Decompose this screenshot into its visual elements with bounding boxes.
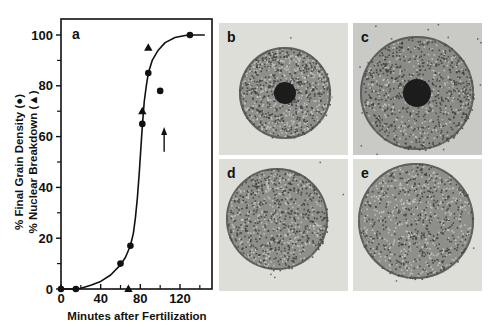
cell-nucleus [274, 82, 296, 104]
data-point-grain-density [58, 286, 65, 293]
plot-frame [61, 19, 212, 289]
y-tick-label: 0 [46, 282, 53, 297]
arrow-up-icon [161, 127, 167, 135]
data-point-grain-density [127, 243, 134, 250]
cell-nucleus [403, 79, 431, 107]
data-point-grain-density [139, 121, 146, 128]
micrograph-panel-c: c [353, 23, 482, 155]
data-point-nuclear-breakdown [138, 107, 146, 115]
panel-label-c: c [361, 29, 369, 45]
cell-image-b [219, 23, 348, 155]
x-tick-label: 120 [169, 291, 191, 306]
micrograph-panel-d: d [219, 159, 348, 291]
y-axis-label-line-2: % Nuclear Breakdown (▲) [27, 90, 39, 233]
cell-image-d [219, 159, 348, 291]
cell-image-c [353, 23, 482, 155]
data-point-grain-density [73, 286, 80, 293]
fit-curve [76, 35, 205, 289]
y-tick-label: 20 [39, 231, 53, 246]
y-tick-label: 60 [39, 129, 53, 144]
panel-label-d: d [227, 165, 236, 181]
data-point-grain-density [187, 32, 194, 39]
data-point-grain-density [145, 70, 152, 77]
x-axis-label: Minutes after Fertilization [67, 310, 206, 322]
data-point-grain-density [117, 260, 124, 267]
data-point-nuclear-breakdown [144, 43, 152, 51]
x-tick-label: 40 [93, 291, 107, 306]
panel-label-e: e [361, 165, 369, 181]
panel-label-a: a [72, 26, 80, 42]
x-tick-label: 0 [57, 291, 64, 306]
data-point-grain-density [157, 88, 164, 95]
chart-panel-a: 02040608010004080120Minutes after Fertil… [0, 0, 215, 327]
cell-image-e [353, 159, 482, 291]
y-tick-label: 40 [39, 180, 53, 195]
y-tick-label: 80 [39, 78, 53, 93]
micrograph-panel-b: b [219, 23, 348, 155]
y-axis-label-line-1: % Final Grain Density (●) [13, 94, 25, 230]
panel-label-b: b [227, 29, 236, 45]
y-tick-label: 100 [31, 28, 53, 43]
micrograph-panel-e: e [353, 159, 482, 291]
x-tick-label: 80 [133, 291, 147, 306]
